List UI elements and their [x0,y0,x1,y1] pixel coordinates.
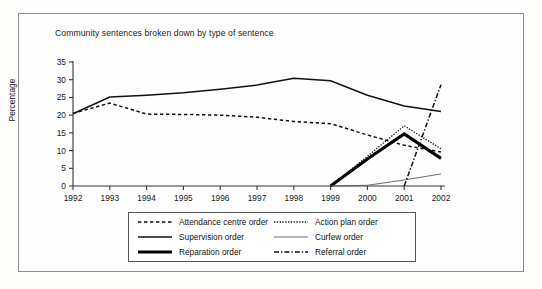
y-tick-label: 25 [57,92,67,102]
y-tick-label: 10 [57,146,67,156]
legend-label: Supervision order [179,232,244,242]
x-tick-label: 1992 [64,193,83,203]
x-tick-label: 1993 [100,193,119,203]
x-tick-labels: 1992199319941995199619971998199920002001… [64,193,451,203]
x-tick-label: 1998 [284,193,303,203]
dash-dot-line-swatch [273,247,309,257]
legend-label: Action plan order [315,217,378,227]
thick-solid-line-swatch [137,247,173,257]
x-tick-label: 1999 [321,193,340,203]
y-tick-label: 20 [57,110,67,120]
dotted-line-swatch [273,217,309,227]
legend-item-curfew-order: Curfew order [273,232,409,242]
y-tick-label: 15 [57,128,67,138]
legend-label: Referral order [315,247,366,257]
x-tick-label: 1996 [211,193,230,203]
x-tick-label: 1994 [137,193,156,203]
x-tick-label: 2002 [432,193,451,203]
legend-grid: Attendance centre order Action plan orde… [129,213,415,261]
dashed-line-swatch [137,217,173,227]
x-tick-label: 1995 [174,193,193,203]
y-tick-label: 30 [57,75,67,85]
legend-item-referral-order: Referral order [273,247,409,257]
legend-label: Curfew order [315,232,363,242]
y-tick-label: 0 [61,181,66,191]
legend-label: Attendance centre order [179,217,268,227]
legend-label: Reparation order [179,247,241,257]
legend-item-reparation-order: Reparation order [137,247,273,257]
chart-legend: Attendance centre order Action plan orde… [128,212,416,262]
x-tick-label: 2000 [358,193,377,203]
legend-item-supervision-order: Supervision order [137,232,273,242]
solid-line-swatch [137,232,173,242]
chart-figure: Community sentences broken down by type … [0,0,542,289]
y-tick-label: 35 [57,57,67,67]
x-tick-label: 2001 [395,193,414,203]
axes [69,61,445,190]
y-tick-label: 5 [61,163,66,173]
y-tick-labels: 05101520253035 [57,57,67,191]
thin-solid-line-swatch [273,232,309,242]
series-line-referral-order [404,85,441,186]
x-tick-label: 1997 [248,193,267,203]
legend-item-attendance-centre-order: Attendance centre order [137,217,273,227]
data-series [73,78,441,186]
legend-item-action-plan-order: Action plan order [273,217,409,227]
